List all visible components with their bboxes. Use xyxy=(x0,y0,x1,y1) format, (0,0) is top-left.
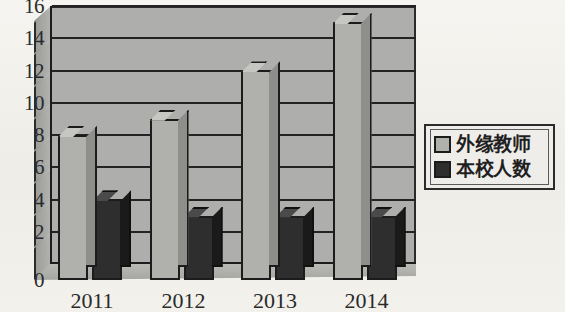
bar-side-face xyxy=(86,126,97,267)
x-axis-tick-label: 2013 xyxy=(253,288,297,312)
y-axis-tick-label: 2 xyxy=(34,219,44,244)
y-axis-tick-label: 8 xyxy=(34,123,44,148)
bar-chart: 0246810121416 2011201220132014 xyxy=(34,6,416,280)
legend-swatch-light-gray xyxy=(434,136,451,153)
bar-side-face xyxy=(120,190,131,267)
bar-side-face xyxy=(361,13,372,267)
y-axis-tick-label: 6 xyxy=(34,155,44,180)
x-axis-tick-label: 2011 xyxy=(70,288,113,312)
bar-2014-series-1 xyxy=(333,22,363,280)
bar-side-face xyxy=(395,207,406,268)
chart-legend: 外缘教师 本校人数 xyxy=(424,124,555,190)
bar-2012-series-1 xyxy=(150,119,180,280)
gridline xyxy=(52,5,416,7)
bar-side-face xyxy=(178,110,189,267)
bar-2011-series-1 xyxy=(58,135,88,280)
x-axis-tick-label: 2014 xyxy=(345,288,389,312)
y-axis-line xyxy=(50,6,52,264)
y-axis-tick-label: 12 xyxy=(24,58,44,83)
legend-swatch-dark-gray xyxy=(434,161,451,178)
bar-2013-series-1 xyxy=(241,70,271,280)
y-axis-tick-label: 4 xyxy=(34,187,44,212)
legend-item-0: 外缘教师 xyxy=(434,135,545,154)
legend-item-1: 本校人数 xyxy=(434,160,545,179)
legend-label-1: 本校人数 xyxy=(456,160,530,179)
legend-label-0: 外缘教师 xyxy=(456,135,530,154)
x-axis-tick-label: 2012 xyxy=(162,288,206,312)
y-axis-tick-label: 10 xyxy=(24,90,44,115)
bar-side-face xyxy=(269,61,280,267)
bar-side-face xyxy=(303,207,314,268)
y-axis-tick-label: 14 xyxy=(24,26,44,51)
y-axis-tick-label: 16 xyxy=(24,0,44,19)
y-axis-tick-label: 0 xyxy=(34,268,44,293)
bar-side-face xyxy=(212,207,223,268)
